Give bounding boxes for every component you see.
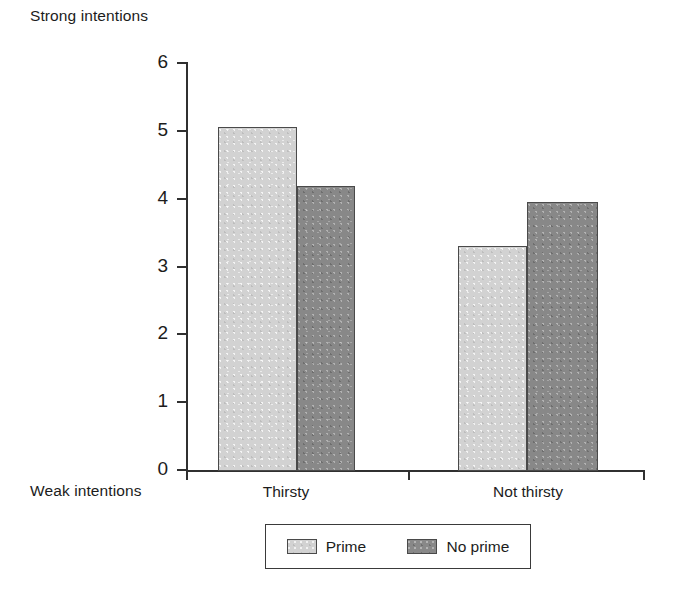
y-tick-label-5: 5 — [138, 120, 168, 139]
y-tick-label-4: 4 — [138, 188, 168, 207]
y-tick-0 — [177, 469, 186, 471]
category-label-not-thirsty: Not thirsty — [493, 484, 563, 500]
bar-prime-thirsty — [218, 127, 297, 471]
legend-label-prime: Prime — [326, 539, 366, 555]
x-tick-right — [643, 470, 645, 480]
category-label-thirsty: Thirsty — [263, 484, 310, 500]
y-tick-label-2: 2 — [138, 323, 168, 342]
legend-swatch-prime-icon — [287, 539, 317, 554]
y-tick-4 — [177, 198, 186, 200]
y-tick-5 — [177, 130, 186, 132]
y-tick-label-6: 6 — [138, 52, 168, 71]
bar-chart-figure: Strong intentions Weak intentions 654321… — [0, 0, 673, 596]
y-tick-1 — [177, 401, 186, 403]
y-tick-6 — [177, 62, 186, 64]
x-tick-left — [186, 470, 188, 480]
y-tick-label-0: 0 — [138, 459, 168, 478]
legend-label-no-prime: No prime — [446, 539, 509, 555]
y-axis-bottom-caption: Weak intentions — [30, 483, 142, 499]
bar-no-prime-thirsty — [297, 186, 355, 471]
legend-entry-prime: Prime — [287, 539, 366, 555]
legend-entry-no-prime: No prime — [407, 539, 509, 555]
y-tick-label-1: 1 — [138, 391, 168, 410]
plot-area: 6543210 ThirstyNot thirsty — [186, 63, 645, 470]
chart-legend: Prime No prime — [265, 524, 531, 569]
legend-swatch-no-prime-icon — [407, 539, 437, 554]
bar-no-prime-not-thirsty — [527, 202, 598, 471]
y-tick-2 — [177, 333, 186, 335]
y-axis-top-caption: Strong intentions — [30, 8, 148, 24]
x-tick-middle — [408, 470, 410, 480]
y-tick-label-3: 3 — [138, 256, 168, 275]
y-axis-line — [186, 62, 188, 471]
bar-prime-not-thirsty — [458, 246, 527, 471]
y-tick-3 — [177, 266, 186, 268]
